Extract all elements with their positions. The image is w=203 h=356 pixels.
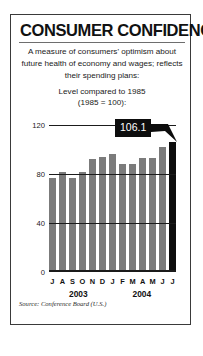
y-axis-tick-label: 120: [17, 121, 45, 130]
month-label: D: [99, 277, 106, 286]
bar-chart: 04080120 106.1 JASONDJFMAMJJ 20032004: [11, 117, 192, 295]
month-label: O: [79, 277, 86, 286]
month-label: M: [129, 277, 136, 286]
chart-subtitle-line1: Level compared to 1985: [17, 86, 187, 97]
month-label: N: [89, 277, 96, 286]
year-label: 2003: [69, 289, 88, 299]
bar: [129, 164, 136, 272]
callout-arrow-icon: [151, 122, 185, 148]
bar: [69, 178, 76, 272]
y-axis-tick-label: 80: [17, 170, 45, 179]
month-label: J: [109, 277, 116, 286]
year-label: 2004: [132, 289, 151, 299]
gridline: [49, 174, 176, 175]
description-text: A measure of consumers' optimism about f…: [17, 46, 187, 82]
page-title: CONSUMER CONFIDENCE: [20, 22, 185, 39]
month-label: A: [139, 277, 146, 286]
chart-subtitle-line2: (1985 = 100):: [17, 97, 187, 108]
x-axis-month-labels: JASONDJFMAMJJ: [49, 277, 176, 286]
month-label: J: [159, 277, 166, 286]
month-label: F: [119, 277, 126, 286]
bar: [89, 159, 96, 272]
chart-subtitle: Level compared to 1985 (1985 = 100):: [17, 86, 187, 109]
bar: [59, 172, 66, 272]
source-note: Source: Conference Board (U.S.): [19, 300, 187, 307]
x-axis-line: [49, 270, 176, 272]
bar: [119, 164, 126, 272]
bar: [169, 142, 176, 272]
chart-panel: CONSUMER CONFIDENCE A measure of consume…: [10, 14, 191, 325]
bar: [109, 154, 116, 272]
month-label: S: [69, 277, 76, 286]
y-axis-tick-label: 40: [17, 219, 45, 228]
bar: [79, 172, 86, 272]
gridline: [49, 223, 176, 224]
month-label: A: [59, 277, 66, 286]
bar: [159, 147, 166, 272]
month-label: J: [49, 277, 56, 286]
title-divider: [19, 42, 185, 43]
value-callout: 106.1: [115, 119, 151, 137]
month-label: M: [149, 277, 156, 286]
month-label: J: [169, 277, 176, 286]
y-axis-tick-label: 0: [17, 268, 45, 277]
infographic-card: CONSUMER CONFIDENCE A measure of consume…: [0, 0, 203, 356]
bar: [49, 178, 56, 272]
